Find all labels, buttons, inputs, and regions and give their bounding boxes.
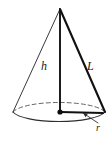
radius-label: r xyxy=(96,123,100,133)
cone-drawing-svg xyxy=(0,0,112,142)
radius-segment xyxy=(60,112,103,113)
cone-diagram: h L r xyxy=(0,0,112,142)
radius-leader-arrowhead xyxy=(83,113,88,117)
height-label: h xyxy=(41,60,47,72)
slant-height-label: L xyxy=(87,60,94,72)
base-center-dot xyxy=(57,109,62,114)
left-slant-edge xyxy=(13,9,60,112)
right-slant-edge xyxy=(60,9,105,112)
